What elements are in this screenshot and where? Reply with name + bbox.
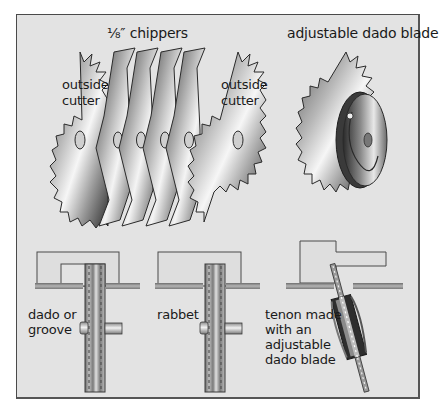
tenon-label-line1: tenon made [265, 308, 342, 322]
dado-label-line2: groove [28, 323, 72, 337]
outside-cutter-left-label-line2: cutter [62, 94, 100, 108]
dado-blade-illustration [0, 0, 444, 420]
tenon-label-line3: adjustable [265, 338, 331, 352]
outside-cutter-right-label-line2: cutter [221, 94, 259, 108]
chippers-label: ⅛″ chippers [107, 26, 188, 40]
tenon-label-line4: dado blade [265, 353, 336, 367]
adjustable-dado-blade [296, 52, 387, 192]
adjustable-dado-blade-label: adjustable dado blade [287, 26, 438, 40]
dado-label-line1: dado or [28, 308, 76, 322]
tenon-label-line2: with an [265, 323, 312, 337]
outside-cutter-right-label-line1: outside [221, 78, 268, 92]
rabbet-label: rabbet [157, 308, 199, 322]
outside-cutter-left-label-line1: outside [62, 78, 109, 92]
rabbet-diagram [155, 252, 260, 392]
